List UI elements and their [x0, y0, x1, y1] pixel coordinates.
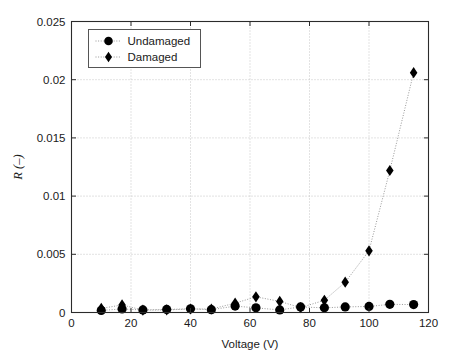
- marker-circle: [341, 302, 350, 311]
- legend: UndamagedDamaged: [89, 30, 201, 68]
- y-tick-label: 0.005: [37, 248, 66, 260]
- y-tick-label: 0: [59, 307, 65, 319]
- x-tick-label: 100: [359, 317, 378, 329]
- y-tick-label: 0.025: [37, 16, 66, 28]
- x-tick-label: 80: [303, 317, 316, 329]
- x-tick-label: 60: [244, 317, 257, 329]
- legend-label-undamaged: Undamaged: [128, 35, 191, 47]
- chart-background: [0, 0, 458, 364]
- x-tick-label: 20: [125, 317, 138, 329]
- marker-circle: [104, 37, 113, 46]
- y-tick-label: 0.02: [43, 74, 65, 86]
- x-axis-title: Voltage (V): [222, 338, 279, 350]
- y-tick-label: 0.01: [43, 190, 65, 202]
- marker-circle: [251, 303, 260, 312]
- scatter-chart: 02040608010012000.0050.010.0150.020.025V…: [0, 0, 458, 364]
- marker-circle: [385, 300, 394, 309]
- x-tick-label: 0: [68, 317, 74, 329]
- chart-figure: 02040608010012000.0050.010.0150.020.025V…: [0, 0, 458, 364]
- y-axis-title: R (–): [11, 154, 25, 180]
- x-tick-label: 120: [419, 317, 438, 329]
- x-tick-label: 40: [184, 317, 197, 329]
- marker-circle: [409, 300, 418, 309]
- y-tick-label: 0.015: [37, 132, 66, 144]
- legend-label-damaged: Damaged: [128, 51, 178, 63]
